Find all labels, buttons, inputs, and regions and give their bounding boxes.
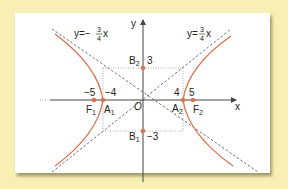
point-B1 <box>141 129 146 134</box>
svg-text:x: x <box>206 28 211 39</box>
hyperbola-diagram: y x O y=− 3 4 x y= 3 4 x −5 −4 4 5 3 −3 … <box>0 0 288 189</box>
svg-text:y=: y= <box>187 28 198 39</box>
point-A2 <box>181 98 186 103</box>
hyperbola-right-branch <box>183 36 233 166</box>
svg-text:3: 3 <box>97 26 101 33</box>
svg-text:y=−: y=− <box>74 28 91 39</box>
label-F1: F1 <box>86 104 96 116</box>
svg-text:3: 3 <box>200 26 204 33</box>
origin-label: O <box>134 101 142 112</box>
x-axis-label: x <box>235 101 240 112</box>
svg-text:4: 4 <box>200 35 204 42</box>
asymptote-label-negative: y=− 3 4 x <box>74 26 108 42</box>
svg-text:4: 4 <box>97 35 101 42</box>
point-F2 <box>191 98 196 103</box>
label-minus4: −4 <box>105 87 117 98</box>
label-4: 4 <box>174 87 180 98</box>
svg-text:x: x <box>103 28 108 39</box>
point-B2 <box>141 66 146 71</box>
label-A2: A2 <box>172 103 183 115</box>
asymptote-label-positive: y= 3 4 x <box>187 26 211 42</box>
y-axis-label: y <box>131 18 136 29</box>
point-A1 <box>101 98 106 103</box>
label-minus5: −5 <box>84 87 96 98</box>
label-B1: B1 <box>129 131 140 143</box>
label-A1: A1 <box>104 104 115 116</box>
label-3: 3 <box>147 55 153 66</box>
label-minus3: −3 <box>147 131 159 142</box>
label-F2: F2 <box>193 104 203 116</box>
point-F1 <box>92 98 97 103</box>
label-5: 5 <box>189 87 195 98</box>
label-B2: B2 <box>129 55 140 67</box>
